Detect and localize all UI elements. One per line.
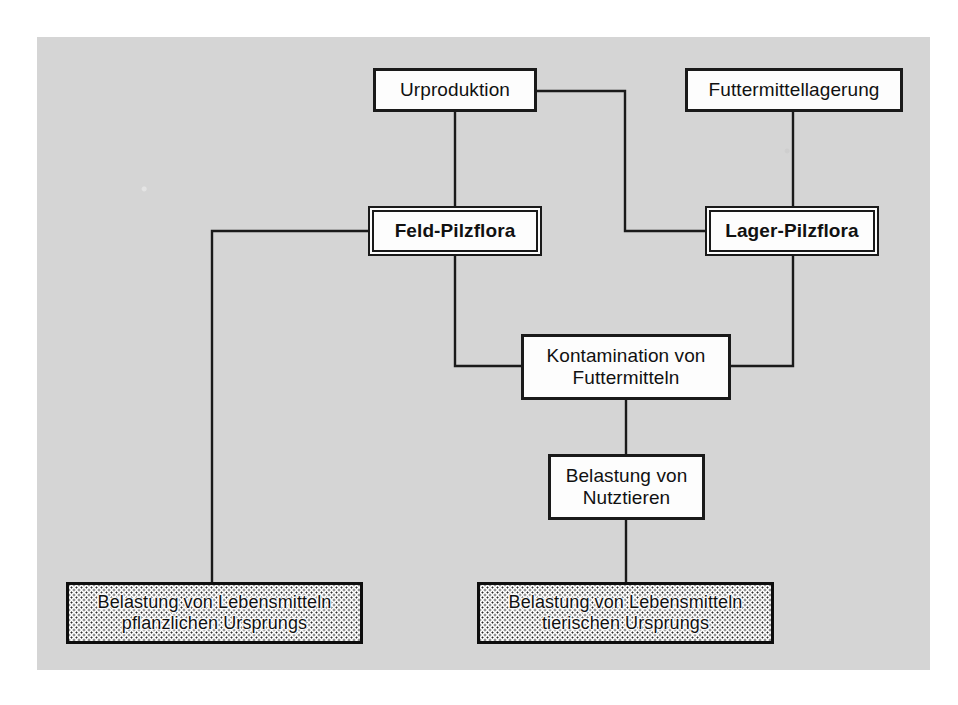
- node-label: Feld-Pilzflora: [387, 220, 524, 242]
- node-label: Kontamination von Futtermitteln: [538, 345, 713, 390]
- diagram-canvas: Urproduktion Futtermittellagerung Feld-P…: [0, 0, 958, 705]
- node-label: Lager-Pilzflora: [717, 220, 866, 242]
- node-futtermittellagerung[interactable]: Futtermittellagerung: [685, 68, 903, 112]
- node-label: Futtermittellagerung: [701, 79, 888, 101]
- node-label: Belastung von Lebensmitteln tierischen U…: [501, 592, 751, 634]
- node-lager-pilzflora[interactable]: Lager-Pilzflora: [709, 210, 875, 252]
- node-feld-pilzflora[interactable]: Feld-Pilzflora: [372, 210, 538, 252]
- node-urproduktion[interactable]: Urproduktion: [373, 68, 537, 112]
- node-kontamination-von-futtermitteln[interactable]: Kontamination von Futtermitteln: [521, 334, 731, 400]
- node-belastung-lebensmittel-tierisch[interactable]: Belastung von Lebensmitteln tierischen U…: [477, 582, 774, 644]
- node-belastung-von-nutztieren[interactable]: Belastung von Nutztieren: [548, 454, 705, 520]
- node-label: Belastung von Lebensmitteln pflanzlichen…: [90, 592, 340, 634]
- node-belastung-lebensmittel-pflanzlich[interactable]: Belastung von Lebensmitteln pflanzlichen…: [66, 582, 363, 644]
- node-label: Urproduktion: [392, 79, 518, 101]
- diagram-panel: [37, 37, 930, 670]
- node-label: Belastung von Nutztieren: [558, 465, 696, 510]
